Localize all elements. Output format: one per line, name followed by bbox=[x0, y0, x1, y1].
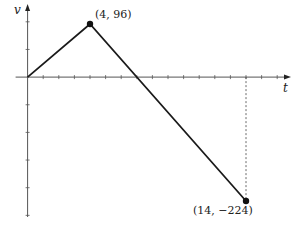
x-axis-label: t bbox=[283, 81, 288, 95]
end-point-label: (14, −224) bbox=[193, 204, 253, 217]
data-point-dot bbox=[87, 21, 93, 27]
y-axis-arrow-icon bbox=[25, 4, 30, 11]
velocity-chart: t v (4, 96) (14, −224) bbox=[0, 0, 296, 225]
peak-point-label: (4, 96) bbox=[95, 8, 132, 21]
x-axis-arrow-icon bbox=[284, 75, 291, 80]
axis-ticks bbox=[26, 22, 278, 216]
y-axis-label: v bbox=[14, 3, 21, 17]
velocity-line bbox=[28, 24, 246, 201]
